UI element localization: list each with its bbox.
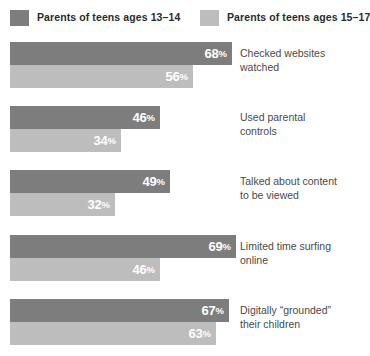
legend-entry-15-17: Parents of teens ages 15–17 xyxy=(200,9,370,26)
bar-15-17: 63% xyxy=(10,322,216,345)
percent-symbol: % xyxy=(102,199,110,210)
bar-value-13-14: 49% xyxy=(142,170,165,193)
bar-value-15-17: 34% xyxy=(93,129,116,152)
bar-15-17: 46% xyxy=(10,258,160,281)
bar-group: 46% 34% Used parental controls xyxy=(0,106,348,152)
bar-row-13-14: 68% xyxy=(10,42,232,65)
bar-group: 67% 63% Digitally “grounded” their child… xyxy=(0,299,348,345)
bar-row-13-14: 49% xyxy=(10,170,170,193)
bar-value-13-14: 46% xyxy=(132,106,155,129)
bar-group: 68% 56% Checked websites watched xyxy=(0,42,348,88)
category-label: Used parental controls xyxy=(240,111,348,138)
percent-symbol: % xyxy=(223,241,231,252)
bar-15-17: 56% xyxy=(10,65,193,88)
legend-label-15-17: Parents of teens ages 15–17 xyxy=(227,12,370,23)
bar-value-15-17: 56% xyxy=(165,65,188,88)
legend-label-13-14: Parents of teens ages 13–14 xyxy=(37,12,180,23)
bar-row-15-17: 56% xyxy=(10,65,193,88)
percent-symbol: % xyxy=(216,305,224,316)
bar-13-14: 49% xyxy=(10,170,170,193)
legend-entry-13-14: Parents of teens ages 13–14 xyxy=(10,9,180,26)
bar-value-13-14: 67% xyxy=(201,299,224,322)
bar-row-15-17: 46% xyxy=(10,258,160,281)
percent-symbol: % xyxy=(108,135,116,146)
bar-group: 49% 32% Talked about content to be viewe… xyxy=(0,170,348,216)
bar-value-15-17: 63% xyxy=(188,322,211,345)
bar-value-15-17: 46% xyxy=(132,258,155,281)
category-label: Checked websites watched xyxy=(240,47,348,74)
percent-symbol: % xyxy=(147,264,155,275)
bar-15-17: 34% xyxy=(10,129,121,152)
bar-13-14: 69% xyxy=(10,235,236,258)
chart-legend: Parents of teens ages 13–14 Parents of t… xyxy=(0,0,348,34)
bar-row-15-17: 34% xyxy=(10,129,121,152)
bar-row-13-14: 46% xyxy=(10,106,160,129)
percent-symbol: % xyxy=(203,328,211,339)
bar-13-14: 67% xyxy=(10,299,229,322)
bar-value-13-14: 68% xyxy=(204,42,227,65)
bar-13-14: 46% xyxy=(10,106,160,129)
bar-row-13-14: 69% xyxy=(10,235,236,258)
category-label: Digitally “grounded” their children xyxy=(240,304,348,331)
legend-swatch-15-17 xyxy=(200,10,219,26)
bar-group: 69% 46% Limited time surfing online xyxy=(0,235,348,281)
percent-symbol: % xyxy=(180,71,188,82)
percent-symbol: % xyxy=(147,112,155,123)
percent-symbol: % xyxy=(219,48,227,59)
bar-row-13-14: 67% xyxy=(10,299,229,322)
bar-13-14: 68% xyxy=(10,42,232,65)
bar-value-15-17: 32% xyxy=(87,193,110,216)
percent-symbol: % xyxy=(157,176,165,187)
category-label: Talked about content to be viewed xyxy=(240,175,348,202)
legend-swatch-13-14 xyxy=(10,10,29,26)
bar-value-13-14: 69% xyxy=(208,235,231,258)
bar-15-17: 32% xyxy=(10,193,115,216)
bar-row-15-17: 63% xyxy=(10,322,216,345)
bar-row-15-17: 32% xyxy=(10,193,115,216)
category-label: Limited time surfing online xyxy=(240,240,348,267)
